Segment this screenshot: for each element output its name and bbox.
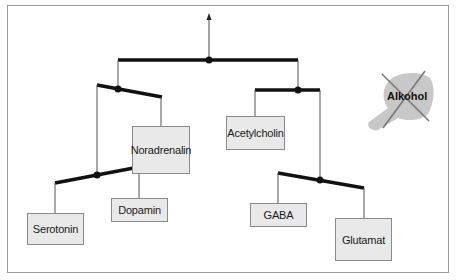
top-pivot xyxy=(206,57,213,64)
up-arrow-head xyxy=(207,13,212,20)
node-glutamat: Glutamat xyxy=(335,218,392,261)
node-acetylcholin: Acetylcholin xyxy=(226,116,285,150)
node-label: Acetylcholin xyxy=(227,127,283,139)
node-noradrenalin: Noradrenalin xyxy=(132,126,190,174)
node-dopamin: Dopamin xyxy=(111,198,168,222)
node-gaba: GABA xyxy=(250,203,307,227)
node-label: Glutamat xyxy=(342,234,385,246)
node-label: Dopamin xyxy=(118,204,161,216)
node-label: Serotonin xyxy=(33,223,78,235)
node-serotonin: Serotonin xyxy=(27,213,84,245)
node-label: Noradrenalin xyxy=(131,144,192,156)
left-beam xyxy=(97,85,162,97)
alcohol-label: Alkohol xyxy=(387,90,427,102)
node-label: GABA xyxy=(264,209,294,221)
